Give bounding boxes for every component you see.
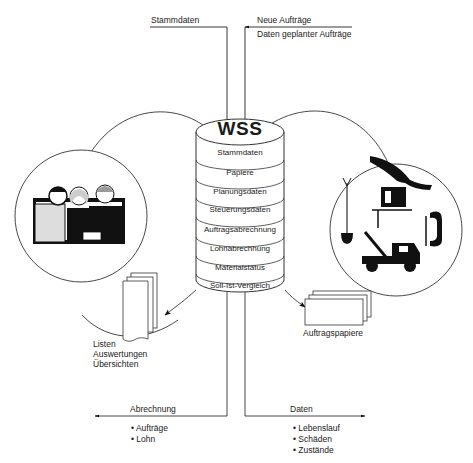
lists-label-3: Übersichten bbox=[93, 359, 138, 369]
input-auftraege-arrow bbox=[245, 27, 352, 132]
abrechnung-item: Aufträge bbox=[131, 423, 168, 434]
arrow-wss-to-papers bbox=[285, 290, 305, 307]
segment-auftragsabrechnung: Auftragsabrechnung bbox=[195, 225, 285, 234]
lists-documents-icon bbox=[123, 273, 157, 341]
segment-papiere: Papiere bbox=[195, 168, 285, 177]
wss-title: WSS bbox=[195, 118, 285, 140]
segment-stammdaten: Stammdaten bbox=[195, 148, 285, 157]
segment-materialstatus: Materialstatus bbox=[195, 263, 285, 272]
lists-label-1: Listen bbox=[93, 339, 116, 349]
segment-soll-ist-vergleich: Soll-Ist-Vergleich bbox=[195, 281, 285, 290]
output-daten-title: Daten bbox=[290, 404, 313, 414]
order-papers-label: Auftragspapiere bbox=[303, 328, 363, 338]
segment-steuerungsdaten: Steuerungsdaten bbox=[195, 205, 285, 214]
daten-item: Zustände bbox=[293, 445, 340, 456]
output-abrechnung-title: Abrechnung bbox=[130, 404, 176, 414]
daten-item: Schäden bbox=[293, 434, 340, 445]
input-label-daten-geplanter-auftraege: Daten geplanter Aufträge bbox=[257, 29, 352, 39]
arrow-wss-to-lists bbox=[165, 290, 196, 315]
input-label-neue-auftraege: Neue Aufträge bbox=[257, 15, 311, 25]
input-stammdaten-arrow bbox=[150, 27, 227, 132]
daten-list: Lebenslauf Schäden Zustände bbox=[293, 423, 340, 456]
input-label-stammdaten: Stammdaten bbox=[151, 15, 199, 25]
abrechnung-item: Lohn bbox=[131, 434, 168, 445]
segment-lohnabrechnung: Lohnabrechnung bbox=[195, 244, 285, 253]
lists-label-2: Auswertungen bbox=[93, 349, 147, 359]
right-circle-tools bbox=[330, 164, 462, 296]
abrechnung-list: Aufträge Lohn bbox=[131, 423, 168, 445]
segment-planungsdaten: Planungsdaten bbox=[195, 187, 285, 196]
order-papers-icon bbox=[305, 291, 371, 325]
daten-item: Lebenslauf bbox=[293, 423, 340, 434]
